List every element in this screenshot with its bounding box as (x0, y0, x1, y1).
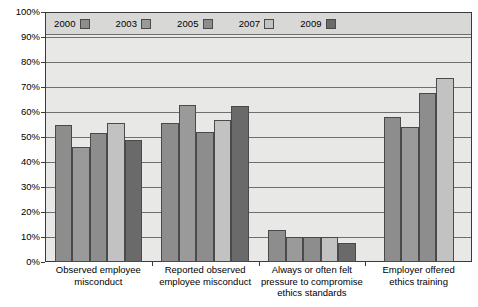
bar-chart: 100%90%80%70%60%50%40%30%20%10%0% 200020… (0, 0, 478, 307)
bar-2005 (303, 237, 321, 262)
x-axis-label-line: Employer offered (383, 264, 455, 275)
y-axis-tick-label: 40% (21, 157, 40, 166)
x-axis-label-line: employee misconduct (159, 276, 251, 287)
x-axis-label-line: ethics training (389, 276, 448, 287)
x-axis-separator (365, 262, 366, 266)
bar-2003 (286, 237, 304, 262)
bar-2005 (419, 93, 437, 262)
x-axis-category-label: Reported observedemployee misconduct (146, 264, 265, 287)
bar-2007 (436, 78, 454, 262)
y-axis-tick-label: 70% (21, 82, 40, 91)
x-axis-category-label: Observed employeemisconduct (39, 264, 158, 287)
y-axis-tick-label: 10% (21, 232, 40, 241)
x-axis-category-label: Always or often feltpressure to compromi… (253, 264, 372, 299)
bar-group (259, 12, 366, 262)
bars-layer (45, 12, 472, 262)
bar-2000 (268, 230, 286, 263)
bar-2007 (107, 123, 125, 262)
x-axis-label-line: Always or often felt (272, 264, 352, 275)
y-axis-tick-label: 80% (21, 57, 40, 66)
x-axis-labels: Observed employeemisconductReported obse… (45, 264, 472, 307)
x-axis-separator (259, 262, 260, 266)
y-axis-tick-label: 60% (21, 107, 40, 116)
x-axis-label-line: ethics standards (277, 287, 346, 298)
bar-2000 (55, 125, 73, 263)
bar-2009 (231, 106, 249, 262)
x-axis-label-line: Observed employee (56, 264, 141, 275)
x-axis-label-line: misconduct (74, 276, 122, 287)
bar-group (45, 12, 152, 262)
x-axis-label-line: Reported observed (165, 264, 246, 275)
y-axis-tick-label: 100% (16, 7, 40, 16)
x-axis-label-line: pressure to compromise (261, 276, 363, 287)
bar-2000 (384, 117, 402, 262)
y-axis-tick-label: 90% (21, 32, 40, 41)
bar-2003 (401, 127, 419, 262)
x-axis-category-label: Employer offeredethics training (359, 264, 478, 287)
bar-2009 (125, 140, 143, 263)
bar-2005 (90, 133, 108, 262)
bar-2003 (179, 105, 197, 263)
y-axis-tick-label: 30% (21, 182, 40, 191)
bar-2009 (338, 243, 356, 262)
x-axis-separator (152, 262, 153, 266)
y-axis-tick-label: 0% (26, 257, 40, 266)
bar-group (152, 12, 259, 262)
bar-2005 (196, 132, 214, 262)
y-axis-tick-mark (41, 262, 45, 263)
bar-2003 (72, 147, 90, 262)
bar-group (365, 12, 472, 262)
bar-2007 (321, 237, 339, 262)
y-axis-tick-label: 20% (21, 207, 40, 216)
y-axis: 100%90%80%70%60%50%40%30%20%10%0% (0, 0, 45, 307)
y-axis-tick-label: 50% (21, 132, 40, 141)
bar-2007 (214, 120, 232, 263)
bar-2000 (161, 123, 179, 262)
